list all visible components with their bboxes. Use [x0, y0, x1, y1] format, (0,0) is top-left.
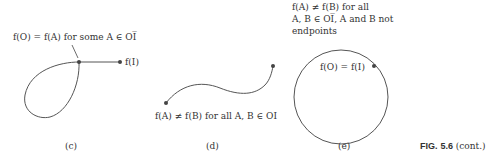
- figure-prefix: FIG.: [420, 141, 438, 151]
- figure-drawings: [0, 0, 486, 160]
- figure-label: FIG. 5.6 (cont.): [420, 141, 486, 151]
- annotation-c: f(O) = f(A) for some A ∈ OI̅: [13, 32, 136, 43]
- loop-curve-c: [25, 62, 120, 118]
- endpoint-label-c: f(I): [125, 57, 139, 68]
- annotation-e-line1: f(A) ≠ f(B) for all: [292, 2, 369, 13]
- caption-d: (d): [206, 141, 219, 151]
- figure-suffix: (cont.): [456, 141, 486, 151]
- arc-curve-d: [166, 66, 273, 103]
- annotation-d: f(A) ≠ f(B) for all A, B ∈ OI: [155, 111, 277, 122]
- annotation-e-line3: endpoints: [292, 26, 337, 37]
- figure-number: 5.6: [440, 141, 453, 151]
- annotation-e-line2: A, B ∈ OI̅, A and B not: [292, 14, 393, 25]
- point-label-e: f(O) = f(I): [320, 62, 365, 73]
- caption-c: (c): [65, 141, 77, 151]
- caption-e: (e): [338, 141, 350, 151]
